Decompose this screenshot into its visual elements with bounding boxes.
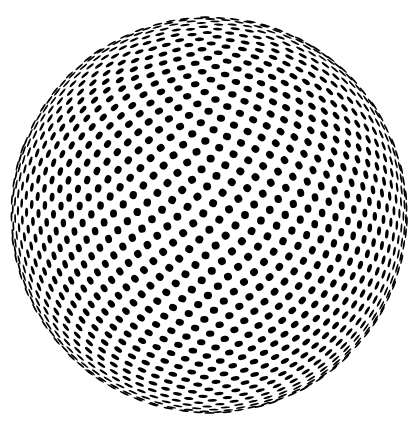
sphere-dot (304, 204, 311, 213)
sphere-dot (104, 330, 114, 339)
sphere-dot (143, 198, 152, 207)
sphere-dot (115, 67, 125, 75)
sphere-dot (288, 226, 297, 235)
sphere-dot (95, 243, 104, 253)
sphere-dot (297, 215, 305, 224)
sphere-dot (254, 47, 264, 53)
dot-sphere-canvas (0, 0, 418, 423)
sphere-dot (220, 160, 230, 170)
sphere-dot (58, 291, 66, 301)
sphere-dot (379, 241, 384, 251)
sphere-dot (194, 234, 204, 244)
sphere-dot (45, 291, 52, 301)
sphere-dot (242, 127, 252, 137)
sphere-dot (130, 74, 140, 83)
sphere-dot (228, 91, 237, 99)
sphere-dot (182, 92, 191, 100)
sphere-dot (394, 159, 398, 169)
sphere-dot (133, 145, 144, 156)
sphere-dot (215, 321, 224, 328)
sphere-dot (338, 228, 345, 237)
sphere-dot (168, 237, 179, 248)
sphere-dot (231, 78, 241, 85)
sphere-dot (321, 331, 330, 340)
sphere-dot (282, 41, 292, 47)
sphere-dot (122, 367, 132, 374)
sphere-dot (348, 314, 356, 323)
sphere-dot (382, 165, 387, 175)
sphere-dot (28, 288, 34, 298)
sphere-dot (197, 339, 206, 346)
sphere-dot (160, 357, 170, 364)
sphere-dot (248, 399, 258, 403)
sphere-dot (381, 141, 387, 151)
sphere-dot (184, 244, 195, 255)
sphere-dot (75, 243, 83, 253)
sphere-dot (223, 396, 232, 400)
sphere-dot (184, 309, 193, 317)
sphere-dot (341, 296, 350, 306)
sphere-dot (341, 77, 349, 85)
sphere-dot (331, 73, 340, 81)
sphere-dot (373, 173, 379, 183)
sphere-dot (33, 234, 38, 243)
sphere-dot (198, 395, 207, 399)
sphere-dot (21, 155, 25, 165)
sphere-dot (341, 310, 350, 320)
sphere-dot (320, 118, 330, 128)
sphere-dot (222, 384, 231, 389)
sphere-dot (183, 73, 192, 80)
sphere-dot (138, 180, 148, 190)
sphere-dot (230, 326, 240, 334)
sphere-dot (250, 53, 260, 60)
sphere-dot (338, 201, 344, 210)
sphere-dot (88, 78, 97, 87)
sphere-dot (56, 97, 64, 106)
sphere-dot (188, 130, 197, 139)
sphere-dot (238, 46, 248, 52)
sphere-dot (354, 154, 362, 164)
sphere-dot (384, 133, 389, 143)
sphere-dot (113, 345, 123, 354)
sphere-dot (104, 234, 113, 244)
sphere-dot (288, 171, 298, 181)
sphere-dot (76, 202, 83, 211)
sphere-dot (257, 29, 267, 34)
sphere-dot (103, 139, 113, 149)
sphere-dot (123, 217, 131, 226)
sphere-dot (191, 81, 200, 88)
sphere-dot (244, 72, 254, 80)
sphere-dot (109, 250, 119, 260)
sphere-dot (110, 353, 120, 361)
sphere-dot (264, 272, 275, 283)
sphere-dot (58, 149, 66, 159)
sphere-dot (217, 256, 227, 266)
sphere-dot (23, 164, 27, 174)
sphere-dot (77, 315, 86, 325)
dot-sphere-figure (0, 0, 418, 423)
sphere-dot (250, 144, 261, 155)
sphere-dot (160, 393, 170, 398)
sphere-dot (192, 191, 203, 202)
sphere-dot (65, 175, 72, 185)
sphere-dot (210, 307, 219, 314)
sphere-dot (363, 123, 370, 133)
sphere-dot (34, 148, 40, 158)
sphere-dot (285, 143, 296, 154)
sphere-dot (321, 61, 330, 69)
sphere-dot (66, 105, 74, 115)
sphere-dot (287, 305, 297, 315)
sphere-dot (289, 266, 299, 277)
sphere-dot (245, 396, 255, 401)
sphere-dot (319, 209, 326, 217)
sphere-dot (135, 374, 145, 381)
sphere-dot (69, 79, 77, 87)
sphere-dot (236, 138, 246, 148)
sphere-dot (294, 65, 304, 73)
sphere-dot (373, 252, 379, 262)
sphere-dot (184, 43, 193, 48)
sphere-dot (63, 338, 71, 346)
sphere-dot (280, 343, 290, 352)
sphere-dot (367, 223, 372, 232)
sphere-dot (141, 359, 151, 367)
